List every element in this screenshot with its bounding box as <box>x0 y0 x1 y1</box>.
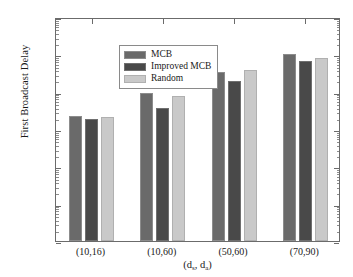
y-tick-minor <box>337 102 340 103</box>
legend-label: MCB <box>151 50 172 60</box>
y-tick-minor <box>337 194 340 195</box>
y-tick-minor <box>337 177 340 178</box>
y-tick-minor <box>337 135 340 136</box>
y-tick-minor <box>56 58 59 59</box>
y-tick-major <box>56 94 61 95</box>
y-tick-minor <box>56 27 59 28</box>
plot-area: MCB Improved MCB Random <box>55 18 340 242</box>
y-tick-minor <box>337 58 340 59</box>
y-tick-minor <box>337 109 340 110</box>
y-tick-minor <box>56 217 59 218</box>
legend-item[interactable]: Random <box>124 73 211 85</box>
y-tick-minor <box>337 113 340 114</box>
y-tick-minor <box>56 113 59 114</box>
y-tick-minor <box>56 188 59 189</box>
bar <box>283 54 296 241</box>
legend-swatch-improved-mcb <box>124 63 146 71</box>
y-tick-minor <box>56 170 59 171</box>
y-tick-major <box>334 168 339 169</box>
y-tick-minor <box>56 133 59 134</box>
y-tick-minor <box>56 21 59 22</box>
y-tick-minor <box>56 207 59 208</box>
x-tick <box>305 19 306 24</box>
y-tick-minor <box>337 34 340 35</box>
bar <box>101 117 114 241</box>
y-tick-minor <box>337 232 340 233</box>
y-tick-minor <box>56 23 59 24</box>
y-tick-minor <box>56 151 59 152</box>
y-tick-minor <box>337 25 340 26</box>
y-tick-minor <box>337 105 340 106</box>
y-tick-minor <box>337 146 340 147</box>
y-tick-minor <box>337 183 340 184</box>
y-tick-minor <box>337 221 340 222</box>
y-tick-minor <box>337 157 340 158</box>
y-tick-major <box>334 131 339 132</box>
y-tick-minor <box>56 225 59 226</box>
y-tick-minor <box>337 172 340 173</box>
y-tick-minor <box>56 214 59 215</box>
x-group-label: (10,16) <box>76 246 105 257</box>
y-tick-minor <box>56 221 59 222</box>
y-tick-minor <box>337 95 340 96</box>
y-tick-minor <box>56 39 59 40</box>
bar <box>212 72 225 241</box>
y-tick-minor <box>337 174 340 175</box>
bar <box>85 119 98 241</box>
bar <box>156 108 169 241</box>
figure-canvas: First Broadcast Delay MCB Improved MCB R… <box>0 0 353 277</box>
y-tick-minor <box>56 157 59 158</box>
y-tick-minor <box>56 142 59 143</box>
y-tick-major <box>334 243 339 244</box>
y-tick-major <box>334 206 339 207</box>
y-tick-minor <box>337 45 340 46</box>
y-tick-minor <box>337 214 340 215</box>
y-tick-minor <box>337 99 340 100</box>
y-tick-minor <box>56 109 59 110</box>
y-tick-minor <box>337 30 340 31</box>
legend-swatch-random <box>124 75 146 83</box>
y-tick-minor <box>56 30 59 31</box>
y-tick-minor <box>337 71 340 72</box>
legend-label: Random <box>151 74 183 84</box>
y-tick-minor <box>337 142 340 143</box>
y-tick-minor <box>56 76 59 77</box>
y-tick-minor <box>56 60 59 61</box>
y-tick-minor <box>337 39 340 40</box>
y-tick-minor <box>337 27 340 28</box>
y-tick-minor <box>337 23 340 24</box>
y-tick-minor <box>56 183 59 184</box>
legend-label: Improved MCB <box>151 62 211 72</box>
y-tick-minor <box>56 137 59 138</box>
y-tick-minor <box>56 146 59 147</box>
y-tick-minor <box>337 62 340 63</box>
y-tick-minor <box>56 105 59 106</box>
y-tick-minor <box>337 133 340 134</box>
y-tick-minor <box>56 120 59 121</box>
y-tick-minor <box>56 71 59 72</box>
x-group-label: (70,90) <box>290 246 319 257</box>
legend-item[interactable]: Improved MCB <box>124 61 211 73</box>
y-tick-major <box>56 131 61 132</box>
x-tick <box>163 19 164 24</box>
y-tick-major <box>334 56 339 57</box>
y-tick-minor <box>56 62 59 63</box>
y-tick-minor <box>56 82 59 83</box>
y-tick-major <box>56 243 61 244</box>
legend-item[interactable]: MCB <box>124 49 211 61</box>
x-group-label: (10,60) <box>147 246 176 257</box>
y-tick-minor <box>56 172 59 173</box>
y-tick-minor <box>56 180 59 181</box>
x-group-label: (50,60) <box>219 246 248 257</box>
y-tick-minor <box>337 76 340 77</box>
bar <box>244 70 257 241</box>
y-tick-minor <box>56 211 59 212</box>
y-tick-minor <box>56 209 59 210</box>
y-tick-major <box>334 19 339 20</box>
y-tick-minor <box>337 60 340 61</box>
y-tick-minor <box>56 34 59 35</box>
y-tick-minor <box>337 217 340 218</box>
y-tick-minor <box>337 188 340 189</box>
y-tick-minor <box>56 95 59 96</box>
y-tick-minor <box>56 45 59 46</box>
